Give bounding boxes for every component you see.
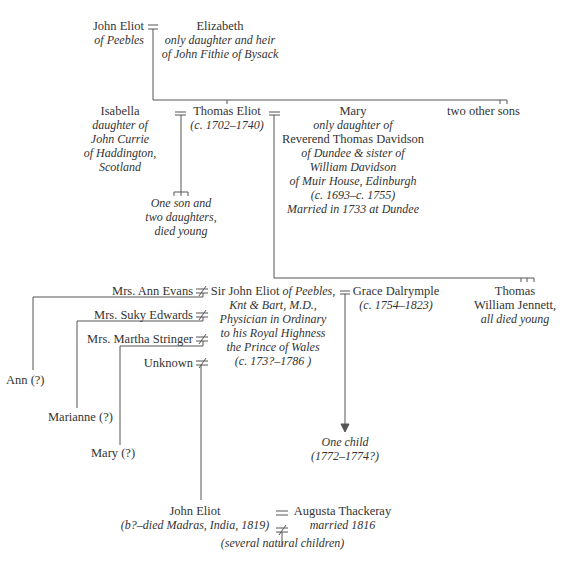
child-ann: Ann (?) — [6, 373, 45, 387]
person-john-eliot-peebles: John Eliot of Peebles — [60, 19, 144, 47]
person-thomas-eliot: Thomas Eliot (c. 1702–1740) — [187, 104, 267, 132]
isabella-children: One son and two daughters, died young — [140, 196, 222, 238]
person-sir-john-eliot: Sir John Eliot of Peebles, Knt & Bart, M… — [208, 284, 338, 368]
thomas-siblings: two other sons — [447, 104, 520, 118]
person-grace-dalrymple: Grace Dalrymple (c. 1754–1823) — [350, 284, 442, 312]
sir-john-siblings: Thomas William Jennett, all died young — [465, 284, 565, 326]
child-marianne: Marianne (?) — [48, 410, 113, 424]
partner-ann-evans: Mrs. Ann Evans — [60, 284, 193, 298]
person-john-eliot-madras: John Eliot (b?–died Madras, India, 1819) — [115, 504, 275, 532]
person-elizabeth: Elizabeth only daughter and heir of John… — [155, 19, 285, 61]
child-mary: Mary (?) — [91, 446, 135, 460]
person-isabella: Isabella daughter of John Currie of Hadd… — [75, 104, 165, 174]
person-augusta-thackeray: Augusta Thackeray married 1816 — [290, 504, 395, 532]
partner-martha-stringer: Mrs. Martha Stringer — [60, 332, 193, 346]
partner-suky-edwards: Mrs. Suky Edwards — [60, 308, 193, 322]
person-mary-davidson: Mary only daughter of Reverend Thomas Da… — [278, 104, 428, 216]
john-natural-children: (several natural children) — [215, 536, 350, 550]
grace-child: One child (1772–1774?) — [295, 435, 395, 463]
partner-unknown: Unknown — [60, 356, 193, 370]
